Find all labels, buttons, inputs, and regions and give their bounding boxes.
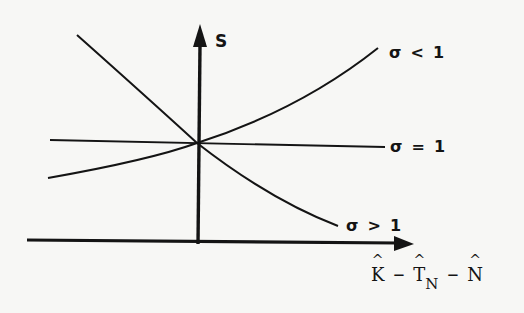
sigma-symbol: σ [389,43,402,62]
curve-sigma-greater-1 [77,35,338,226]
curve-sigma-equal-1 [50,140,385,147]
curve-sigma-less-1 [48,48,378,178]
value: 1 [390,216,402,235]
label-sigma-greater-1: σ>1 [346,216,402,235]
value: 1 [433,43,445,62]
t-subscript: N [425,275,438,293]
label-sigma-less-1: σ<1 [389,43,445,62]
minus-sign: − [447,264,458,285]
y-axis [193,24,207,244]
n-hat: N [467,264,483,285]
sigma-symbol: σ [390,137,403,156]
x-axis-label: K−TN−N [371,264,483,285]
minus-sign: − [393,264,404,285]
k-hat: K [371,264,384,285]
operator: = [411,137,425,156]
label-sigma-equal-1: σ=1 [390,137,446,156]
x-axis [27,236,414,251]
sigma-symbol: σ [346,216,359,235]
t-hat: T [413,264,425,285]
value: 1 [434,137,446,156]
y-axis-arrowhead-icon [193,24,207,47]
y-axis-label: S [215,31,228,51]
operator: > [367,216,381,235]
operator: < [410,43,424,62]
x-axis-arrowhead-icon [394,236,414,251]
